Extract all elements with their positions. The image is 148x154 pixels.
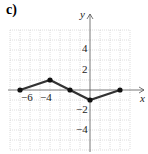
y-tick-4: 4 (82, 42, 88, 54)
y-tick-neg2: −2 (76, 103, 88, 115)
x-axis-label: x (140, 92, 145, 104)
y-axis-label: y (80, 8, 85, 20)
chart-plot (0, 0, 148, 154)
x-tick-neg4: −4 (40, 91, 52, 103)
y-tick-2: 2 (82, 63, 88, 75)
y-tick-neg4: −4 (76, 123, 88, 135)
x-tick-neg6: −6 (21, 91, 33, 103)
